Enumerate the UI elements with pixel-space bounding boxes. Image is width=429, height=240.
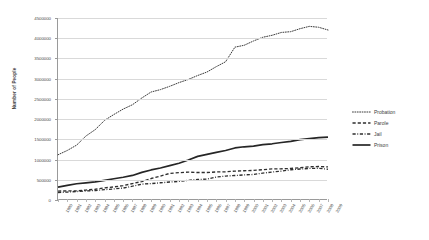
dashdot-line-key [352,130,371,138]
x-axis-tick-label: 1985 [111,203,120,213]
x-axis-tick-label: 2004 [288,203,297,213]
x-axis-tick-label: 1993 [186,203,195,213]
legend-label: Parole [374,120,388,126]
x-axis-tick-label: 1998 [232,203,241,213]
legend-label: Prison [374,142,388,148]
x-axis-tick-label: 2007 [316,203,325,213]
legend-item-prison[interactable]: Prison [352,139,426,150]
x-axis-tick-label: 1986 [120,203,129,213]
x-axis-tick-label: 1981 [74,203,83,213]
x-axis-tick-label: 1995 [204,203,213,213]
legend-label: Probation [374,109,395,115]
x-axis-tick-label: 1994 [195,203,204,213]
legend-item-probation[interactable]: Probation [352,106,426,117]
x-axis-tick-label: 1997 [223,203,232,213]
x-axis-tick-label: 2009 [335,203,344,213]
x-axis-tick-label: 1982 [83,203,92,213]
line-chart: Number of People 05000001000000150000020… [0,0,429,240]
x-axis-tick-label: 1999 [241,203,250,213]
legend-item-parole[interactable]: Parole [352,117,426,128]
legend-item-jail[interactable]: Jail [352,128,426,139]
x-axis-tick-label: 1992 [176,203,185,213]
x-axis-tick-label: 2008 [325,203,334,213]
legend-label: Jail [374,131,382,137]
x-axis-tick-label: 1996 [214,203,223,213]
x-axis-tick-label: 2005 [297,203,306,213]
x-axis-tick-label: 2001 [260,203,269,213]
x-axis-tick-label: 1987 [130,203,139,213]
x-axis-tick-label: 1991 [167,203,176,213]
dotted-line-key [352,108,371,116]
x-axis-tick-label: 2002 [269,203,278,213]
solid-line-key [352,141,371,149]
x-axis-tick-label: 1988 [139,203,148,213]
x-axis-tick-label: 2003 [279,203,288,213]
x-axis-tick-label: 1983 [93,203,102,213]
chart-legend: ProbationParoleJailPrison [352,106,426,150]
x-axis-tick-label: 1990 [158,203,167,213]
x-axis-tick-label: 1984 [102,203,111,213]
x-axis-tick-label: 1980 [65,203,74,213]
x-axis-tick-label: 2006 [307,203,316,213]
x-axis-tick-label: 2000 [251,203,260,213]
dashed-line-key [352,119,371,127]
x-axis-tick-label: 1989 [148,203,157,213]
